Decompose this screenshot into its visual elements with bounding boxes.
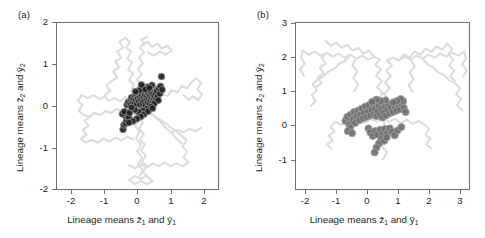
panel-b-x-axis-title: Lineage means z̄1 and ȳ1 — [243, 214, 485, 225]
panel-a-plot-canvas — [57, 23, 218, 189]
panel-b-xtick-label-3: 3 — [457, 196, 462, 206]
panel-a-ytick-label-1: 1 — [30, 59, 48, 69]
panel-a-ytick-label-2: 2 — [30, 17, 48, 27]
panel-b-xtick-mark-n1 — [336, 190, 337, 194]
panel-a-xtick-mark-2 — [204, 190, 205, 194]
panel-a-ytick-label-n2: -2 — [26, 184, 48, 194]
panel-b-lineage-mean-markers — [342, 95, 409, 156]
panel-b-xtick-label-1: 1 — [395, 196, 400, 206]
panel-a-y-axis-title: Lineage means z̄2 and ȳ2 — [14, 63, 25, 172]
panel-a-x-axis-title: Lineage means z̄1 and ȳ1 — [0, 214, 243, 225]
panel-b-xtick-mark-1 — [398, 190, 399, 194]
panel-a-ytick-mark-n1 — [52, 148, 56, 149]
panel-b-xtick-label-n1: -1 — [332, 196, 340, 206]
panel-a-ytick-mark-n2 — [52, 189, 56, 190]
panel-b-ytick-mark-n1 — [291, 160, 295, 161]
panel-a-x-axis-title-text: Lineage means z̄1 and ȳ1 — [67, 214, 176, 225]
panel-a-ytick-mark-1 — [52, 64, 56, 65]
panel-a-xtick-mark-0 — [137, 190, 138, 194]
panel-b-ytick-label-3: 3 — [269, 18, 287, 28]
panel-b-ytick-mark-0 — [291, 125, 295, 126]
panel-b-xtick-label-2: 2 — [426, 196, 431, 206]
panel-a-ytick-mark-2 — [52, 22, 56, 23]
panel-a-ytick-label-0: 0 — [30, 101, 48, 111]
panel-b-xtick-label-0: 0 — [364, 196, 369, 206]
panel-a-plot-area — [56, 22, 219, 190]
panel-a: (a) — [0, 0, 243, 238]
panel-b-x-axis-title-text: Lineage means z̄1 and ȳ1 — [310, 214, 419, 225]
panel-b-ytick-mark-2 — [291, 57, 295, 58]
panel-b-xtick-label-n2: -2 — [301, 196, 309, 206]
panel-a-tag: (a) — [18, 9, 30, 20]
panel-b-ytick-mark-1 — [291, 91, 295, 92]
panel-b-xtick-mark-0 — [367, 190, 368, 194]
panel-b-xtick-mark-3 — [460, 190, 461, 194]
figure-two-panel-scatter: (a) — [0, 0, 485, 238]
panel-a-xtick-label-2: 2 — [201, 196, 206, 206]
panel-b-xtick-mark-n2 — [305, 190, 306, 194]
panel-b-ytick-mark-3 — [291, 23, 295, 24]
panel-a-xtick-mark-1 — [171, 190, 172, 194]
panel-a-ytick-label-n1: -1 — [26, 143, 48, 153]
panel-b-ytick-label-1: 1 — [269, 86, 287, 96]
panel-b-ytick-label-n1: -1 — [265, 155, 287, 165]
panel-a-xtick-label-0: 0 — [134, 196, 139, 206]
panel-b-ytick-label-2: 2 — [269, 52, 287, 62]
panel-b: (b) — [243, 0, 485, 238]
panel-a-ytick-mark-0 — [52, 106, 56, 107]
panel-b-plot-canvas — [296, 23, 469, 189]
panel-b-ytick-label-0: 0 — [269, 120, 287, 130]
panel-b-y-axis-title: Lineage means z̄2 and ȳ2 — [253, 63, 264, 172]
panel-b-xtick-mark-2 — [429, 190, 430, 194]
panel-a-xtick-label-1: 1 — [168, 196, 173, 206]
panel-a-xtick-label-n2: -2 — [67, 196, 75, 206]
panel-b-plot-area — [295, 22, 470, 190]
panel-b-tag: (b) — [257, 9, 269, 20]
panel-a-xtick-mark-n2 — [71, 190, 72, 194]
panel-a-xtick-mark-n1 — [104, 190, 105, 194]
panel-a-y-axis-title-text: Lineage means z̄2 and ȳ2 — [14, 63, 25, 172]
panel-a-xtick-label-n1: -1 — [100, 196, 108, 206]
panel-b-y-axis-title-text: Lineage means z̄2 and ȳ2 — [253, 63, 264, 172]
